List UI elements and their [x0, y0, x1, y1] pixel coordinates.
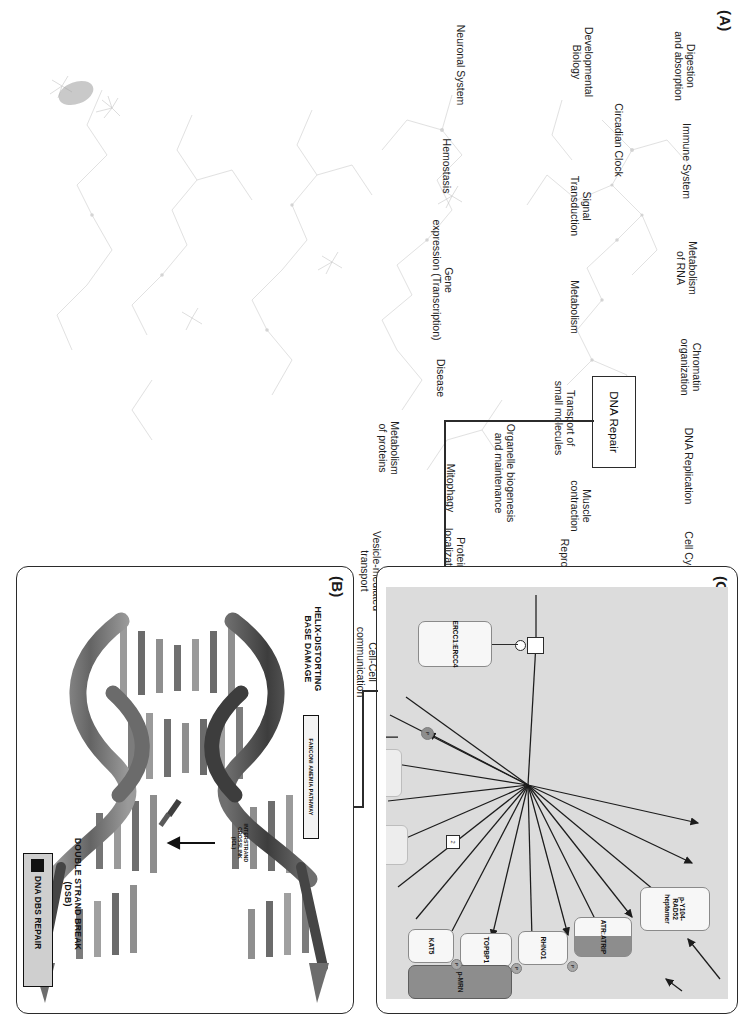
- panel-c-diagram-canvas[interactable]: p-Y104-RAD52 heptamer ATR:ATRIP RHNO1 TO…: [386, 587, 728, 999]
- dbs-color-swatch: [32, 859, 45, 872]
- pathway-label-metabolism: Metabolism: [568, 266, 580, 348]
- node-partial-bottom-right[interactable]: [386, 825, 408, 865]
- dna-repair-node-label: DNA Repair: [608, 391, 620, 453]
- pathway-label-neuronal-system: Neuronal System: [454, 14, 466, 116]
- pathway-label-hemostasis: Hemostasis: [440, 124, 452, 208]
- panel-b: (B): [16, 566, 354, 1014]
- phospho-badge-icon: P: [451, 959, 462, 970]
- panel-c: (C): [376, 566, 738, 1014]
- pathway-label-digestion: Digestion and absorption: [672, 18, 696, 114]
- catalyst-circle-icon: [515, 640, 526, 651]
- phospho-badge-icon: P: [421, 727, 434, 740]
- phospho-badge-icon: P: [511, 963, 522, 974]
- node-label: RHNO1: [539, 936, 547, 959]
- pathway-label-immune-system: Immune System: [680, 118, 692, 204]
- pathway-label-metabolism-proteins: Metabolism of proteins: [376, 404, 400, 492]
- reaction-node-square[interactable]: [527, 637, 544, 654]
- connector-a-to-b: [444, 420, 446, 566]
- node-topbp1[interactable]: TOPBP1: [460, 933, 512, 967]
- pathway-label-disease: Disease: [434, 346, 446, 410]
- pathway-label-muscle-contraction: Muscle contraction: [568, 468, 592, 544]
- dna-repair-node[interactable]: DNA Repair: [592, 376, 636, 468]
- dna-dbs-repair-box[interactable]: DNA DBS REPAIR: [23, 853, 53, 987]
- phospho-badge-icon: P: [567, 961, 578, 972]
- connector-c-across: [362, 690, 364, 808]
- pathway-label-dna-replication: DNA Replication: [682, 416, 694, 516]
- pathway-label-organelle-biogenesis: Organelle biogenesis and maintenance: [492, 414, 516, 532]
- interstrand-crosslink-label: INTERSTRAND CROSSLINK (ICL): [230, 813, 249, 873]
- figure-root: (A): [0, 0, 752, 1018]
- node-label: TOPBP1: [482, 937, 490, 963]
- fanconi-anemia-pathway-tag[interactable]: FANCONI ANEMIA PATHWAY: [303, 715, 319, 839]
- node-label: ATR:ATRIP: [599, 920, 607, 955]
- node-label: p-MRN: [456, 971, 464, 992]
- dna-dbs-repair-label: DNA DBS REPAIR: [33, 876, 43, 949]
- node-partial-bottom-left[interactable]: [386, 749, 402, 797]
- caption-double-strand-break: DOUBLE STRAND BREAK (DSB): [62, 819, 83, 969]
- caption-helix-distorting-base-damage: HELIX-DISTORTING BASE DAMAGE: [302, 589, 323, 709]
- node-p-mrn[interactable]: p-MRN: [408, 965, 512, 999]
- node-label: KAT5: [427, 938, 435, 955]
- node-label: p-Y104-RAD52 heptamer: [664, 890, 687, 928]
- connector-c-down: [362, 690, 378, 692]
- node-kat5[interactable]: KAT5: [408, 929, 454, 963]
- rotated-figure-canvas: (A): [0, 0, 752, 1018]
- node-ercc1-ercc4[interactable]: ERCC1:ERCC4: [418, 621, 492, 667]
- node-rhno1[interactable]: RHNO1: [518, 931, 568, 965]
- node-atr-atrip[interactable]: ATR:ATRIP: [574, 917, 632, 957]
- pathway-label-signal-transduction: Signal Transduction: [568, 168, 592, 244]
- pathway-label-circadian-clock: Circadian Clock: [612, 94, 624, 186]
- pathway-label-gene-expression: Gene expression (Transcription): [430, 214, 454, 346]
- stoichiometry-label: 2: [446, 835, 460, 849]
- node-p-y104-rad52-heptamer[interactable]: p-Y104-RAD52 heptamer: [640, 887, 710, 931]
- node-label: ERCC1:ERCC4: [451, 621, 459, 668]
- pathway-label-chromatin: Chromatin organization: [678, 322, 702, 412]
- pathway-label-metabolism-rna: Metabolism of RNA: [674, 228, 698, 308]
- pathway-label-transport-small-mol: Transport of small molecules: [552, 370, 576, 466]
- pathway-label-developmental-biology: Developmental Biology: [570, 12, 594, 112]
- fanconi-anemia-pathway-label: FANCONI ANEMIA PATHWAY: [308, 739, 314, 816]
- panel-a: (A): [0, 0, 752, 560]
- ercc-edge: [492, 644, 518, 645]
- connector-a-vertical: [444, 420, 594, 422]
